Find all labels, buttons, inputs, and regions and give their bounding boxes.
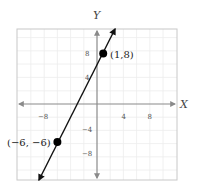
point-label-neg6-neg6: (−6, −6) <box>7 137 51 148</box>
y-tick-label: −4 <box>82 126 93 134</box>
x-axis-label: X <box>179 98 189 111</box>
x-tick-label: 8 <box>148 113 152 121</box>
y-axis-label: Y <box>93 9 102 22</box>
x-tick-label: −8 <box>38 113 48 121</box>
point-1-8 <box>99 50 107 58</box>
y-tick-label: −8 <box>82 150 92 158</box>
y-tick-label: 8 <box>85 50 89 58</box>
coordinate-plane: Y X −8 4 8 8 4 −4 −8 (1,8) (−6, −6) <box>0 0 197 189</box>
x-tick-label: 4 <box>122 113 127 121</box>
point-label-1-8: (1,8) <box>110 49 134 60</box>
point-neg6-neg6 <box>53 138 61 146</box>
